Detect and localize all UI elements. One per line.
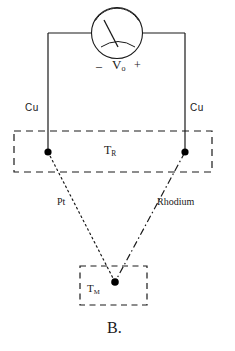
voltage-subscript: o bbox=[121, 64, 125, 73]
measuring-zone-symbol: T bbox=[87, 282, 94, 294]
junction-dot-measuring bbox=[111, 278, 119, 286]
thermocouple-diagram-figure: – Vo + Cu Cu TR Pt Rhodium TM B. bbox=[0, 0, 235, 351]
voltage-symbol: V bbox=[112, 57, 121, 72]
voltage-label: Vo bbox=[112, 58, 125, 73]
panel-label: B. bbox=[107, 320, 122, 336]
reference-zone-label: TR bbox=[104, 144, 116, 157]
measuring-zone-subscript: M bbox=[94, 288, 100, 295]
polarity-positive-label: + bbox=[134, 59, 141, 71]
diagram-canvas bbox=[0, 0, 235, 351]
reference-zone-subscript: R bbox=[111, 149, 116, 158]
polarity-negative-label: – bbox=[96, 60, 102, 72]
junction-dot-reference-left bbox=[44, 148, 51, 155]
platinum-wire-label: Pt bbox=[57, 197, 65, 207]
copper-lead-label-left: Cu bbox=[25, 103, 39, 113]
copper-lead-label-right: Cu bbox=[190, 103, 204, 113]
measuring-zone-label: TM bbox=[87, 283, 100, 295]
rhodium-wire-label: Rhodium bbox=[157, 197, 194, 207]
voltmeter-symbol bbox=[92, 8, 143, 59]
wire-platinum-dotted bbox=[48, 152, 115, 282]
junction-dot-reference-right bbox=[181, 148, 188, 155]
